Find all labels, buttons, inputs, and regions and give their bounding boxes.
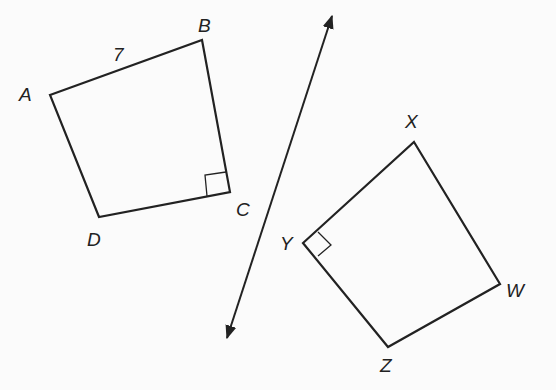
diagram: A B C D 7 X Y Z W	[0, 0, 556, 390]
geometry-figure: A B C D 7 X Y Z W	[0, 0, 556, 390]
side-length-ab: 7	[113, 44, 125, 65]
label-d: D	[87, 229, 101, 250]
label-y: Y	[280, 233, 294, 254]
label-b: B	[198, 15, 211, 36]
label-w: W	[506, 280, 526, 301]
quadrilateral-abcd	[50, 40, 230, 217]
right-angle-marker-y	[318, 232, 331, 256]
label-a: A	[18, 84, 32, 105]
label-z: Z	[379, 355, 393, 376]
label-c: C	[236, 199, 250, 220]
label-x: X	[404, 111, 419, 132]
reflection-line	[227, 16, 332, 338]
quadrilateral-xwzy	[303, 142, 500, 347]
